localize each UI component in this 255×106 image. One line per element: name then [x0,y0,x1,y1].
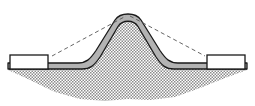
left-block-body [10,55,48,69]
right-block-body [207,55,245,69]
figure-container [0,0,255,106]
cross-section-diagram [0,0,255,106]
right-clamping-block [207,55,245,69]
hatched-workpiece-region [8,69,247,101]
hatched-region-shape [8,69,247,101]
left-clamping-block [10,55,48,69]
